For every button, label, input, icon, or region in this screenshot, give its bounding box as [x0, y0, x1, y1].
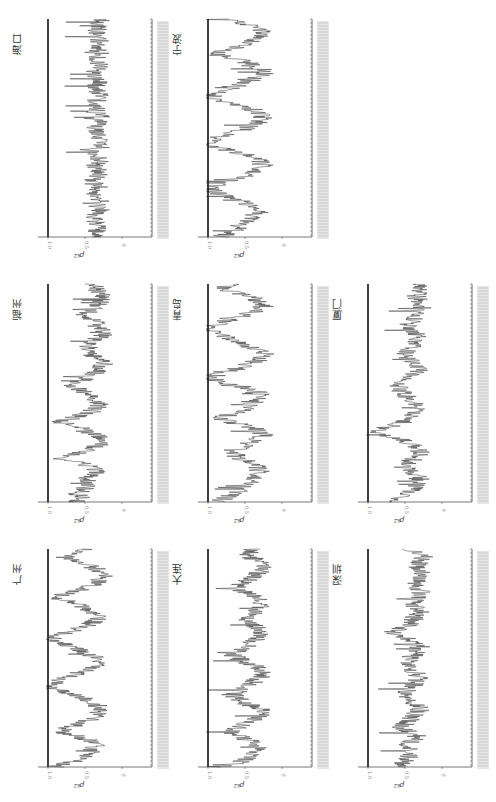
chart-svg: 1.00.50ρk2 — [350, 280, 480, 515]
svg-text:k2: k2 — [74, 518, 80, 524]
svg-text:k2: k2 — [234, 518, 240, 524]
chart-panel-ningbo: 1.00.50ρk2 宁波 — [190, 15, 320, 250]
panel-title: 大连 — [170, 563, 185, 585]
svg-text:0: 0 — [281, 508, 287, 511]
svg-text:1.0: 1.0 — [47, 241, 53, 249]
chart-panel-xiamen: 1.00.50ρk2 厦门 — [350, 280, 480, 515]
svg-text:k2: k2 — [234, 783, 240, 789]
svg-text:k2: k2 — [394, 783, 400, 789]
svg-text:0.5: 0.5 — [244, 506, 250, 514]
panel-title: 厦门 — [330, 298, 345, 320]
chart-svg: 1.00.50ρk2 — [30, 280, 160, 515]
chart-svg: 1.00.50ρk2 — [30, 15, 160, 250]
svg-text:1.0: 1.0 — [367, 506, 373, 514]
svg-text:k2: k2 — [394, 518, 400, 524]
svg-text:0.5: 0.5 — [84, 241, 90, 249]
panel-title: 青岛 — [170, 298, 185, 320]
svg-text:0: 0 — [441, 508, 447, 511]
chart-panel-fuzhou: 1.00.50ρk2 福州 — [30, 280, 160, 515]
svg-text:k2: k2 — [234, 253, 240, 259]
svg-text:1.0: 1.0 — [207, 506, 213, 514]
svg-text:0: 0 — [281, 773, 287, 776]
svg-text:0: 0 — [121, 773, 127, 776]
svg-text:0.5: 0.5 — [404, 771, 410, 779]
panel-title: 宁波 — [170, 33, 185, 55]
chart-svg: 1.00.50ρk2 — [350, 545, 480, 780]
panel-title: 深圳 — [330, 563, 345, 585]
svg-text:k2: k2 — [74, 783, 80, 789]
chart-panel-haikou: 1.00.50ρk2 海口 — [30, 15, 160, 250]
chart-svg: 1.00.50ρk2 — [30, 545, 160, 780]
svg-text:1.0: 1.0 — [47, 506, 53, 514]
chart-panel-guangzhou: 1.00.50ρk2 广州 — [30, 545, 160, 780]
svg-text:0: 0 — [281, 243, 287, 246]
chart-panel-dalian: 1.00.50ρk2 大连 — [190, 545, 320, 780]
svg-text:0.5: 0.5 — [244, 771, 250, 779]
chart-svg: 1.00.50ρk2 — [190, 280, 320, 515]
svg-text:0.5: 0.5 — [84, 506, 90, 514]
chart-panel-shenzhen: 1.00.50ρk2 深圳 — [350, 545, 480, 780]
svg-text:0: 0 — [441, 773, 447, 776]
panel-title: 海口 — [10, 33, 25, 55]
chart-svg: 1.00.50ρk2 — [190, 545, 320, 780]
svg-text:0.5: 0.5 — [84, 771, 90, 779]
svg-text:0.5: 0.5 — [404, 506, 410, 514]
panel-title: 福州 — [10, 298, 25, 320]
svg-text:0: 0 — [121, 508, 127, 511]
svg-text:0: 0 — [121, 243, 127, 246]
svg-text:1.0: 1.0 — [367, 771, 373, 779]
panel-title: 广州 — [10, 563, 25, 585]
svg-text:1.0: 1.0 — [207, 771, 213, 779]
chart-panel-qingdao: 1.00.50ρk2 青岛 — [190, 280, 320, 515]
chart-svg: 1.00.50ρk2 — [190, 15, 320, 250]
svg-text:0.5: 0.5 — [244, 241, 250, 249]
svg-text:1.0: 1.0 — [207, 241, 213, 249]
svg-text:1.0: 1.0 — [47, 771, 53, 779]
svg-text:k2: k2 — [74, 253, 80, 259]
